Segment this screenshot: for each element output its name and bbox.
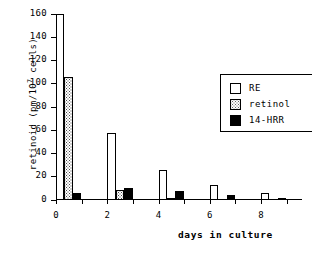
y-tick-label-40: 40 — [36, 147, 47, 157]
legend-label-re: RE — [249, 83, 261, 93]
legend-item-retinol: retinol — [230, 98, 290, 110]
bar-day0-retinol — [64, 77, 72, 200]
x-tick-label-8: 8 — [258, 210, 264, 220]
x-tick-3 — [133, 199, 134, 204]
legend-swatch-14-hrr — [230, 115, 241, 126]
bar-day8-re — [261, 193, 269, 200]
x-tick-label-2: 2 — [104, 210, 110, 220]
legend-label-14-hrr: 14-HRR — [249, 115, 285, 125]
y-tick-label-160: 160 — [30, 8, 47, 18]
bar-day2-hrr — [124, 188, 132, 200]
bar-day6-hrr — [227, 195, 235, 200]
y-tick-label-140: 140 — [30, 31, 47, 41]
y-tick-label-80: 80 — [36, 101, 47, 111]
legend-swatch-re — [230, 83, 241, 94]
y-tick-label-120: 120 — [30, 54, 47, 64]
legend-label-retinol: retinol — [249, 99, 290, 109]
y-tick-label-100: 100 — [30, 77, 47, 87]
y-tick-label-20: 20 — [36, 170, 47, 180]
x-tick-1 — [82, 199, 83, 204]
bar-day4-hrr — [175, 191, 183, 200]
bar-day0-hrr — [73, 193, 81, 200]
y-tick-label-0: 0 — [41, 194, 47, 204]
y-tick-label-60: 60 — [36, 124, 47, 134]
x-tick-7 — [235, 199, 236, 204]
bar-day0-re — [56, 14, 64, 200]
bar-day2-re — [107, 133, 115, 200]
x-tick-label-0: 0 — [53, 210, 59, 220]
bar-day2-retinol — [116, 190, 124, 200]
legend-swatch-retinol — [230, 99, 241, 110]
x-tick-5 — [184, 199, 185, 204]
bar-day4-retinol — [167, 198, 175, 200]
x-tick-label-6: 6 — [207, 210, 213, 220]
bar-day6-re — [210, 185, 218, 200]
bar-day8-hrr — [278, 198, 286, 200]
x-tick-9 — [287, 199, 288, 204]
chart-legend: RE retinol 14-HRR — [220, 74, 312, 132]
legend-item-14-hrr: 14-HRR — [230, 114, 285, 126]
x-tick-label-4: 4 — [156, 210, 162, 220]
legend-item-re: RE — [230, 82, 261, 94]
plot-area: 020406080100120140160 02468 RE retinol 1… — [56, 14, 302, 200]
bar-day4-re — [159, 170, 167, 200]
bar-chart-figure: retinoid (pm/107 cells) 0204060801001201… — [0, 0, 312, 253]
x-axis-title: days in culture — [178, 229, 273, 240]
